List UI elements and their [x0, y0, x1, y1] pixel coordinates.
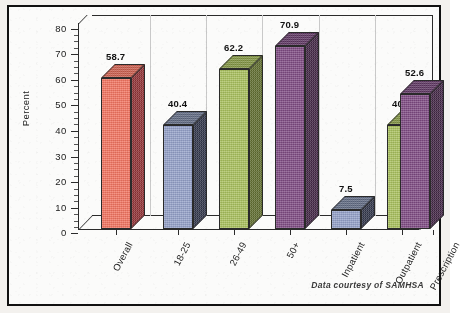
bar-26-49[interactable] — [219, 55, 249, 229]
bar-value-inpatient: 7.5 — [339, 183, 353, 194]
y-tick-minor — [74, 86, 78, 87]
y-axis-line — [78, 23, 79, 230]
bar-front-face — [331, 210, 361, 229]
bar-overall[interactable] — [101, 64, 131, 229]
x-tick-prescription — [433, 230, 434, 235]
y-tick-30 — [71, 157, 78, 158]
y-tick-80 — [71, 29, 78, 30]
y-tick-label-0: 0 — [9, 227, 67, 238]
y-tick-minor — [74, 41, 78, 42]
bar-front-face — [400, 94, 430, 229]
y-tick-20 — [71, 182, 78, 183]
bar-front-face — [219, 69, 249, 229]
x-tick-outpatient — [402, 230, 403, 235]
y-tick-minor — [74, 67, 78, 68]
gridline-4 — [319, 15, 320, 216]
bar-18-25[interactable] — [163, 111, 193, 229]
x-axis-label-outpatient: Outpatient — [392, 240, 423, 286]
y-tick-minor — [74, 150, 78, 151]
x-tick-26-49 — [234, 230, 235, 235]
bar-value-50-plus: 70.9 — [280, 19, 299, 30]
bar-value-prescription: 52.6 — [405, 67, 424, 78]
y-tick-minor — [74, 163, 78, 164]
y-tick-minor — [74, 99, 78, 100]
plot-area: Percent 80 70 60 50 40 — [9, 7, 443, 308]
bar-side-face — [249, 55, 263, 229]
x-tick-50-plus — [290, 230, 291, 235]
y-tick-0 — [71, 233, 78, 234]
y-tick-label-50: 50 — [9, 99, 67, 110]
gridline-5 — [375, 15, 376, 216]
bar-front-face — [163, 125, 193, 229]
bar-value-18-25: 40.4 — [168, 98, 187, 109]
bar-side-face — [131, 64, 145, 229]
y-tick-minor — [74, 189, 78, 190]
y-tick-50 — [71, 105, 78, 106]
floor-left-edge — [78, 215, 93, 230]
chart-frame: Percent 80 70 60 50 40 — [7, 5, 441, 306]
y-tick-minor — [74, 195, 78, 196]
y-tick-70 — [71, 54, 78, 55]
y-axis-top-riser — [78, 15, 88, 24]
x-tick-inpatient — [346, 230, 347, 235]
y-tick-minor — [74, 227, 78, 228]
y-tick-label-20: 20 — [9, 176, 67, 187]
bar-inpatient[interactable] — [331, 196, 361, 229]
y-tick-label-40: 40 — [9, 125, 67, 136]
y-tick-minor — [74, 93, 78, 94]
y-tick-minor — [74, 144, 78, 145]
y-tick-label-60: 60 — [9, 74, 67, 85]
x-axis-label-50-plus: 50+ — [284, 240, 302, 260]
y-tick-minor — [74, 48, 78, 49]
y-tick-minor — [74, 201, 78, 202]
y-tick-minor — [74, 214, 78, 215]
y-tick-minor — [74, 35, 78, 36]
x-axis-label-26-49: 26-49 — [227, 240, 249, 268]
bar-side-face — [430, 80, 444, 229]
x-tick-18-25 — [178, 230, 179, 235]
y-tick-minor — [74, 73, 78, 74]
x-axis-label-18-25: 18-25 — [171, 240, 193, 268]
bar-prescription[interactable] — [400, 80, 430, 229]
x-axis-label-prescription: Prescription — [427, 240, 461, 292]
x-axis-label-inpatient: Inpatient — [339, 240, 367, 279]
gridline-1 — [150, 15, 151, 216]
y-tick-minor — [74, 137, 78, 138]
bar-front-face — [275, 46, 305, 229]
bar-value-overall: 58.7 — [106, 51, 125, 62]
y-tick-label-70: 70 — [9, 48, 67, 59]
y-tick-40 — [71, 131, 78, 132]
y-tick-minor — [74, 61, 78, 62]
bar-50-plus[interactable] — [275, 32, 305, 229]
bar-front-face — [101, 78, 131, 229]
y-tick-minor — [74, 124, 78, 125]
y-tick-minor — [74, 169, 78, 170]
y-tick-label-10: 10 — [9, 202, 67, 213]
y-tick-label-30: 30 — [9, 151, 67, 162]
bar-side-face — [193, 111, 207, 229]
y-tick-minor — [74, 176, 78, 177]
y-tick-10 — [71, 208, 78, 209]
y-tick-minor — [74, 112, 78, 113]
y-tick-minor — [74, 118, 78, 119]
data-source-credit: Data courtesy of SAMHSA — [311, 280, 424, 290]
y-tick-60 — [71, 80, 78, 81]
bar-value-26-49: 62.2 — [224, 42, 243, 53]
x-axis-label-overall: Overall — [110, 240, 135, 273]
bar-side-face — [305, 32, 319, 229]
y-tick-minor — [74, 221, 78, 222]
x-tick-overall — [116, 230, 117, 235]
y-tick-label-80: 80 — [9, 23, 67, 34]
